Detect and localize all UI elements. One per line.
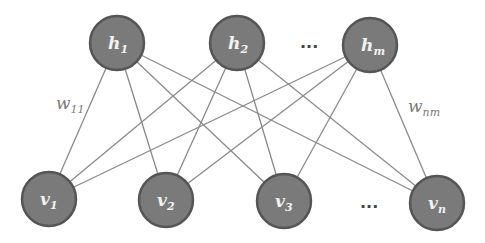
edge-hm-v1	[49, 45, 370, 199]
node-v2: v2	[139, 173, 193, 227]
node-hm: hm	[343, 18, 397, 72]
nodes: h1h2hmv1v2v3vn	[22, 16, 464, 230]
rbm-diagram: h1h2hmv1v2v3vn ......w11wnm	[0, 0, 485, 243]
weight-label-wnm: wnm	[408, 96, 440, 119]
weight-label-w11: w11	[56, 93, 85, 116]
edge-h2-v1	[49, 43, 237, 199]
visible-ellipsis: ...	[360, 193, 378, 212]
node-vn: vn	[410, 176, 464, 230]
node-h2: h2	[210, 16, 264, 70]
node-v1: v1	[22, 172, 76, 226]
hidden-ellipsis: ...	[300, 33, 318, 52]
node-v3: v3	[257, 174, 311, 228]
node-h1: h1	[90, 16, 144, 70]
